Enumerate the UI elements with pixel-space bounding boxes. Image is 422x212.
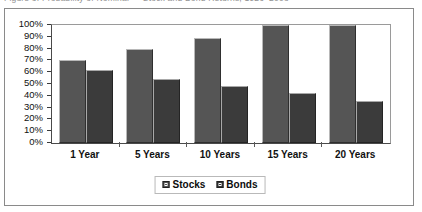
plot-area bbox=[51, 24, 391, 144]
legend-label: Bonds bbox=[226, 179, 257, 190]
y-axis-tick-label: 70% bbox=[24, 54, 43, 64]
y-axis-tick-label: 20% bbox=[24, 113, 43, 123]
y-axis-tick-label: 100% bbox=[19, 19, 43, 29]
y-axis: 100%90%80%70%60%50%40%30%20%10%0% bbox=[5, 19, 47, 147]
y-axis-tick-label: 90% bbox=[24, 31, 43, 41]
bar-group bbox=[329, 25, 383, 143]
legend-item-stocks: Stocks bbox=[163, 179, 206, 190]
bar-bonds-1-year bbox=[86, 70, 113, 143]
x-axis-tick-mark bbox=[254, 142, 255, 147]
bar-group bbox=[59, 25, 113, 143]
x-axis-category-label: 10 Years bbox=[186, 148, 254, 162]
bar-group bbox=[194, 25, 248, 143]
x-axis-category-label: 15 Years bbox=[254, 148, 322, 162]
bar-stocks-10-years bbox=[194, 38, 221, 143]
bar-stocks-20-years bbox=[329, 25, 356, 143]
y-axis-tick-label: 0% bbox=[29, 137, 43, 147]
y-axis-tick-label: 50% bbox=[24, 78, 43, 88]
y-axis-tick-label: 10% bbox=[24, 125, 43, 135]
y-axis-tick-label: 30% bbox=[24, 102, 43, 112]
y-axis-tick-label: 80% bbox=[24, 43, 43, 53]
bars-layer bbox=[52, 25, 390, 143]
figure-frame: 100%90%80%70%60%50%40%30%20%10%0% 1 Year… bbox=[4, 8, 414, 206]
legend-label: Stocks bbox=[173, 179, 206, 190]
x-axis-tick-mark bbox=[186, 142, 187, 147]
x-axis-category-label: 1 Year bbox=[51, 148, 119, 162]
legend-swatch-icon bbox=[163, 181, 170, 188]
x-axis-tick-mark bbox=[119, 142, 120, 147]
x-axis-category-label: 20 Years bbox=[321, 148, 389, 162]
bar-chart: 100%90%80%70%60%50%40%30%20%10%0% 1 Year… bbox=[5, 9, 415, 207]
bar-bonds-15-years bbox=[289, 93, 316, 143]
x-axis-tick-mark bbox=[321, 142, 322, 147]
y-axis-tick-label: 60% bbox=[24, 66, 43, 76]
bar-stocks-5-years bbox=[126, 49, 153, 143]
bar-stocks-15-years bbox=[262, 25, 289, 143]
bar-stocks-1-year bbox=[59, 60, 86, 143]
bar-bonds-20-years bbox=[356, 101, 383, 143]
bar-bonds-5-years bbox=[153, 79, 180, 143]
x-axis-labels: 1 Year5 Years10 Years15 Years20 Years bbox=[51, 148, 389, 164]
bar-group bbox=[262, 25, 316, 143]
figure-caption-text: Figure 3. Probability of Nominal — Stock… bbox=[4, 0, 289, 3]
y-axis-tick-label: 40% bbox=[24, 90, 43, 100]
bar-bonds-10-years bbox=[221, 86, 248, 143]
bar-group bbox=[126, 25, 180, 143]
legend-swatch-icon bbox=[216, 181, 223, 188]
x-axis-ticks bbox=[51, 142, 391, 147]
legend-item-bonds: Bonds bbox=[216, 179, 257, 190]
figure-caption-strip: Figure 3. Probability of Nominal — Stock… bbox=[0, 0, 422, 8]
x-axis-category-label: 5 Years bbox=[119, 148, 187, 162]
chart-legend: StocksBonds bbox=[155, 176, 266, 194]
